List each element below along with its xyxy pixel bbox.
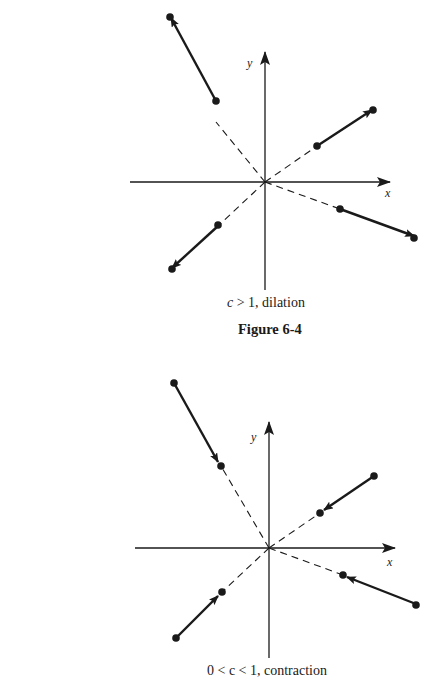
vector-arrow (347, 577, 416, 604)
point (313, 142, 321, 150)
point (212, 97, 220, 105)
x-axis-label: x (386, 555, 393, 569)
point (336, 205, 344, 213)
point (168, 265, 176, 273)
vector-arrow (324, 476, 374, 510)
caption-contraction: 0 < c < 1, contraction (207, 663, 327, 679)
point (172, 634, 180, 642)
x-axis-label: x (384, 186, 391, 200)
point (369, 106, 377, 114)
figure-contraction: x y (135, 379, 420, 658)
figure-title: Figure 6-4 (238, 321, 302, 338)
point (218, 588, 226, 596)
figure-dilation: x y (130, 13, 418, 290)
caption-text: > 1, dilation (233, 295, 305, 310)
vector-arrow (174, 383, 218, 462)
point (370, 472, 378, 480)
y-axis-label: y (250, 430, 257, 444)
point (316, 509, 324, 517)
vector-arrow (317, 110, 372, 146)
point (217, 462, 225, 470)
vector-arrow (172, 226, 218, 268)
vector-arrow (171, 18, 216, 101)
point (410, 234, 418, 242)
y-axis-label: y (246, 56, 253, 70)
vector-arrow (176, 596, 218, 638)
point (170, 379, 178, 387)
point (214, 221, 222, 229)
figures-canvas: x y x y (0, 0, 447, 691)
point (412, 601, 420, 609)
vector-arrow (340, 209, 414, 236)
point (166, 13, 174, 21)
caption-dilation: c > 1, dilation (227, 295, 305, 311)
caption-text: 0 < c < 1, contraction (207, 663, 327, 678)
point (339, 571, 347, 579)
